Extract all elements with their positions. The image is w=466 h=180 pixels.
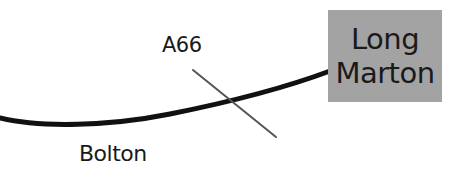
a66-road-line (193, 70, 276, 137)
village-label-bolton: Bolton (79, 141, 147, 166)
destination-box: Long Marton (328, 10, 442, 102)
destination-line2: Marton (335, 56, 434, 90)
destination-line1: Long (351, 22, 419, 56)
main-route-line (0, 71, 330, 124)
road-label-a66: A66 (162, 33, 202, 57)
route-map: A66 Bolton Long Marton (0, 0, 466, 180)
